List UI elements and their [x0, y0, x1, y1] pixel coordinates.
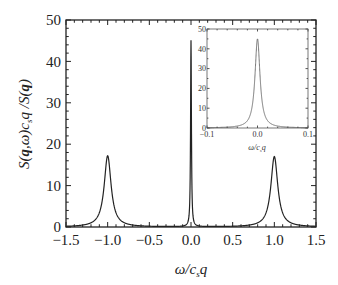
inset-x-tick-label: 0.1 — [303, 130, 313, 139]
y-axis-label: S(q,ω)csq /S(q) — [16, 79, 34, 169]
main-y-tick-label: 40 — [46, 54, 61, 70]
inset-x-tick-label: 0.0 — [253, 130, 263, 139]
main-y-tick-label: 0 — [54, 219, 62, 235]
inset-y-tick-label: 20 — [198, 84, 206, 93]
main-x-tick-label: 1.5 — [307, 232, 326, 248]
inset-y-tick-label: 40 — [198, 45, 206, 54]
inset-y-tick-label: 0 — [202, 124, 206, 133]
inset-y-tick-label: 30 — [198, 64, 206, 73]
main-y-tick-label: 50 — [46, 12, 61, 28]
main-y-tick-label: 30 — [46, 95, 61, 111]
main-x-tick-label: 0.0 — [182, 232, 201, 248]
chart: −1.5−1.0−0.50.00.51.01.501020304050 −0.1… — [0, 0, 338, 285]
inset-frame — [207, 29, 308, 128]
inset-x-axis-label: ω/csq — [248, 143, 265, 153]
main-x-tick-label: −1.0 — [94, 232, 121, 248]
main-x-tick-label: 0.5 — [223, 232, 242, 248]
inset-y-tick-label: 10 — [198, 104, 206, 113]
main-y-tick-label: 20 — [46, 136, 61, 152]
x-axis-label: ω/csq — [175, 261, 208, 279]
main-x-tick-label: −0.5 — [136, 232, 163, 248]
inset-y-tick-label: 50 — [198, 25, 206, 34]
main-x-tick-label: 1.0 — [265, 232, 284, 248]
main-y-tick-label: 10 — [46, 178, 61, 194]
